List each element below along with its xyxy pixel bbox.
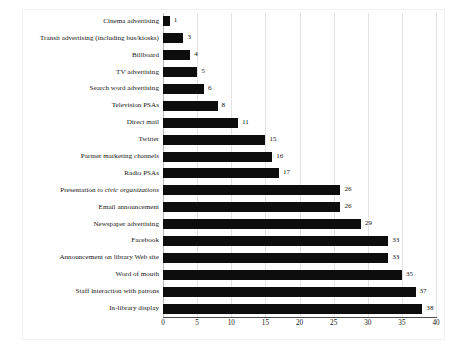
- x-tick-label: 15: [262, 320, 269, 327]
- x-tick-label: 5: [195, 320, 199, 327]
- category-label: Search word advertising: [90, 85, 159, 92]
- bar-row: Direct mail11: [163, 114, 436, 131]
- category-label: Staff interaction with patrons: [76, 288, 159, 295]
- category-label: Radio PSAs: [124, 170, 159, 177]
- bar-value-label: 16: [276, 153, 283, 160]
- bar-chart-figure: Cinema advertising1Transit advertising (…: [0, 0, 464, 349]
- bar: [163, 84, 204, 94]
- category-label: Transit advertising (including bus/kiosk…: [40, 35, 159, 42]
- bar-value-label: 26: [344, 204, 351, 211]
- bar-value-label: 4: [194, 52, 198, 59]
- category-label: Direct mail: [127, 119, 159, 126]
- x-tick-label: 40: [432, 320, 439, 327]
- bar-value-label: 1: [174, 18, 178, 25]
- bar-value-label: 38: [426, 305, 433, 312]
- bar-value-label: 33: [392, 237, 399, 244]
- bar: [163, 202, 340, 212]
- bar-value-label: 33: [392, 254, 399, 261]
- bar-value-label: 8: [222, 102, 226, 109]
- bar: [163, 101, 218, 111]
- bar: [163, 270, 402, 280]
- bar-value-label: 17: [283, 170, 290, 177]
- x-tick-label: 10: [228, 320, 235, 327]
- x-tick-label: 0: [161, 320, 165, 327]
- bar-row: Newspaper advertising29: [163, 216, 436, 233]
- bar-row: Staff interaction with patrons37: [163, 283, 436, 300]
- bar-value-label: 11: [242, 119, 249, 126]
- plot-area: Cinema advertising1Transit advertising (…: [163, 13, 436, 317]
- bar-value-label: 3: [187, 35, 191, 42]
- category-label: Email announcement: [99, 204, 159, 211]
- gridline-40: [436, 13, 437, 317]
- bar-row: TV advertising5: [163, 64, 436, 81]
- bar: [163, 236, 388, 246]
- category-label: Partner marketing channels: [81, 153, 159, 160]
- bar: [163, 135, 265, 145]
- bar-value-label: 6: [208, 85, 212, 92]
- bar: [163, 67, 197, 77]
- bar-value-label: 29: [365, 221, 372, 228]
- bar-row: Partner marketing channels16: [163, 148, 436, 165]
- bar: [163, 304, 422, 314]
- category-label: Facebook: [131, 237, 159, 244]
- category-label: Newspaper advertising: [93, 221, 159, 228]
- bar-row: Twitter15: [163, 131, 436, 148]
- bar-row: Presentation to civic organizations26: [163, 182, 436, 199]
- bar: [163, 152, 272, 162]
- bar-row: Search word advertising6: [163, 81, 436, 98]
- x-axis-line: [163, 317, 437, 318]
- category-label: Twitter: [138, 136, 159, 143]
- bar: [163, 185, 340, 195]
- x-tick-label: 25: [330, 320, 337, 327]
- bar-value-label: 26: [344, 187, 351, 194]
- bar: [163, 118, 238, 128]
- bar: [163, 50, 190, 60]
- bar: [163, 33, 183, 43]
- category-label: In-library display: [109, 305, 159, 312]
- bar-value-label: 5: [201, 69, 205, 76]
- bar-row: Email announcement26: [163, 199, 436, 216]
- bar-row: Cinema advertising1: [163, 13, 436, 30]
- x-axis-tick-labels: 0510152025303540: [163, 320, 436, 332]
- bar: [163, 168, 279, 178]
- x-tick-label: 30: [364, 320, 371, 327]
- bar-value-label: 15: [269, 136, 276, 143]
- bar-value-label: 35: [406, 271, 413, 278]
- bar: [163, 219, 361, 229]
- bar: [163, 16, 170, 26]
- bar-row: Radio PSAs17: [163, 165, 436, 182]
- bar-row: Announcement on library Web site33: [163, 249, 436, 266]
- bar-row: Word of mouth35: [163, 266, 436, 283]
- bar-row: Transit advertising (including bus/kiosk…: [163, 30, 436, 47]
- bar-row: Television PSAs8: [163, 97, 436, 114]
- bar-rows: Cinema advertising1Transit advertising (…: [163, 13, 436, 317]
- bar: [163, 287, 416, 297]
- category-label: Presentation to civic organizations: [60, 187, 159, 194]
- bar: [163, 253, 388, 263]
- category-label: Word of mouth: [116, 271, 159, 278]
- category-label: Billboard: [132, 52, 159, 59]
- category-label: Television PSAs: [112, 102, 159, 109]
- x-tick-label: 20: [296, 320, 303, 327]
- bar-row: Facebook33: [163, 233, 436, 250]
- bar-value-label: 37: [420, 288, 427, 295]
- bar-row: In-library display38: [163, 300, 436, 317]
- x-tick-label: 35: [398, 320, 405, 327]
- category-label: Announcement on library Web site: [59, 254, 159, 261]
- category-label: Cinema advertising: [103, 18, 159, 25]
- category-label: TV advertising: [116, 69, 159, 76]
- bar-row: Billboard4: [163, 47, 436, 64]
